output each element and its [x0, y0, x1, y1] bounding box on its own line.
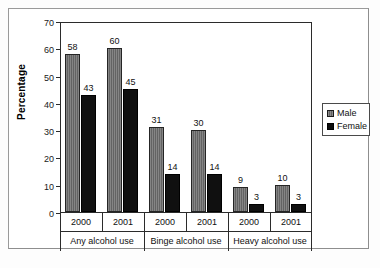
y-axis-tick-label: 10 — [44, 182, 54, 192]
x-axis-year-cell: 2000 — [228, 213, 270, 232]
x-axis-year-cell: 2001 — [102, 213, 144, 232]
x-axis-separator — [186, 213, 187, 232]
figure-container: 706050403020100 Percentage 5843604531143… — [0, 0, 380, 268]
bar-value-label: 31 — [144, 115, 170, 126]
bar-female-2000-2 — [165, 174, 180, 212]
legend-label-male: Male — [337, 107, 357, 120]
y-axis-title: Percentage — [16, 52, 30, 132]
x-axis-separator — [102, 213, 103, 232]
bar-female-2000-4 — [249, 204, 264, 212]
legend-item-female: Female — [327, 120, 366, 133]
bar-value-label: 9 — [228, 175, 254, 186]
bar-male-2001-1 — [107, 48, 122, 212]
x-axis-category-row: Any alcohol useBinge alcohol useHeavy al… — [60, 232, 312, 251]
legend-label-female: Female — [337, 120, 367, 133]
x-axis-year-cell: 2000 — [144, 213, 186, 232]
bar-female-2001-1 — [123, 89, 138, 212]
x-axis-year-row: 200020012000200120002001 — [60, 213, 312, 232]
bar-value-label: 14 — [202, 162, 228, 173]
bar-female-2000-0 — [81, 95, 96, 212]
x-axis-group-separator — [311, 213, 312, 251]
bar-value-label: 45 — [118, 77, 144, 88]
x-axis-year-cell: 2001 — [186, 213, 228, 232]
y-axis-tick-label: 0 — [49, 209, 54, 219]
bar-value-label: 60 — [102, 36, 128, 47]
x-axis-group-separator — [60, 213, 61, 251]
plot-area: 584360453114301493103 — [60, 22, 312, 213]
y-axis-tick-label: 50 — [44, 73, 54, 83]
y-axis-tick-label: 20 — [44, 154, 54, 164]
y-axis-tick-label: 60 — [44, 45, 54, 55]
x-axis-group-separator — [228, 213, 229, 251]
y-axis-tick-label: 30 — [44, 127, 54, 137]
bar-value-label: 43 — [76, 83, 102, 94]
x-axis-separator — [270, 213, 271, 232]
bar-female-2001-3 — [207, 174, 222, 212]
x-axis: 200020012000200120002001 Any alcohol use… — [60, 213, 312, 251]
x-axis-group-label: Binge alcohol use — [144, 232, 228, 251]
x-axis-group-label: Any alcohol use — [60, 232, 144, 251]
bar-male-2000-0 — [65, 54, 80, 212]
bars-layer: 584360453114301493103 — [61, 23, 311, 212]
x-axis-year-cell: 2000 — [60, 213, 102, 232]
legend-swatch-female-icon — [327, 123, 334, 130]
bar-value-label: 3 — [286, 192, 312, 203]
x-axis-year-cell: 2001 — [270, 213, 312, 232]
y-axis-tick-label: 70 — [44, 18, 54, 28]
bar-value-label: 58 — [60, 42, 86, 53]
x-axis-group-label: Heavy alcohol use — [228, 232, 312, 251]
bar-chart: 706050403020100 Percentage 5843604531143… — [0, 0, 380, 268]
legend-swatch-male-icon — [327, 110, 334, 117]
bar-value-label: 10 — [270, 173, 296, 184]
legend-item-male: Male — [327, 107, 366, 120]
bar-female-2001-5 — [291, 204, 306, 212]
chart-legend: Male Female — [322, 103, 370, 136]
x-axis-group-separator — [144, 213, 145, 251]
y-axis-tick-label: 40 — [44, 100, 54, 110]
bar-value-label: 3 — [244, 192, 270, 203]
bar-value-label: 14 — [160, 162, 186, 173]
bar-value-label: 30 — [186, 118, 212, 129]
